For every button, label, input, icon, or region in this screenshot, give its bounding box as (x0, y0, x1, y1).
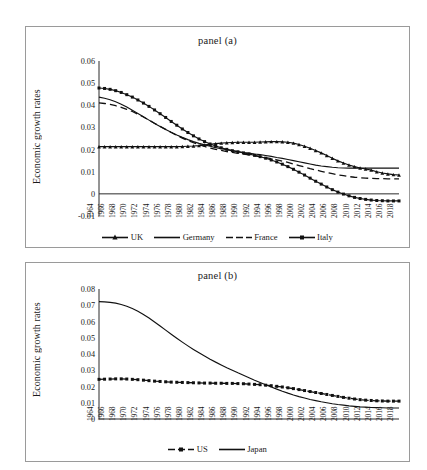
series-marker-italy (336, 191, 339, 194)
x-tick-label: 2010 (341, 407, 350, 421)
x-tick-label: 1996 (263, 204, 272, 218)
panel-b: panel (b) Economic growth rates 00.010.0… (25, 262, 410, 462)
legend-item-us[interactable]: US (168, 444, 208, 454)
series-marker-italy (242, 151, 245, 154)
series-marker-italy (214, 145, 217, 148)
x-tick-label: 2012 (352, 407, 361, 421)
series-marker-italy (331, 188, 334, 191)
series-marker-italy (253, 154, 256, 157)
x-tick-label: 2006 (319, 204, 328, 218)
x-tick-label: 1994 (252, 407, 261, 421)
panel-b-plot-area: 00.010.020.030.040.050.060.070.08 196419… (99, 289, 399, 419)
series-marker-italy (236, 150, 239, 153)
x-tick-label: 2018 (386, 204, 395, 218)
legend-swatch-france (226, 233, 252, 242)
legend-swatch-italy (289, 233, 315, 242)
series-line-japan (99, 302, 399, 408)
legend-swatch-germany (154, 233, 180, 242)
series-marker-us (370, 399, 373, 402)
x-tick-label: 1980 (174, 407, 183, 421)
legend-label: France (254, 232, 277, 242)
series-marker-italy (270, 158, 273, 161)
x-tick-label: 2000 (286, 407, 295, 421)
x-tick-label: 1970 (119, 407, 128, 421)
series-marker-us (303, 389, 306, 392)
series-marker-us (348, 397, 351, 400)
series-marker-us (148, 379, 151, 382)
x-tick-label: 1984 (197, 204, 206, 218)
y-tick-label: 0.07 (81, 301, 99, 310)
series-marker-italy (375, 199, 378, 202)
x-tick-label: 1974 (141, 204, 150, 218)
x-tick-label: 1998 (274, 204, 283, 218)
series-marker-italy (153, 108, 156, 111)
series-marker-us (192, 381, 195, 384)
series-marker-italy (359, 197, 362, 200)
panel-a-legend: UKGermanyFranceItaly (26, 232, 409, 242)
series-marker-us (381, 399, 384, 402)
series-marker-us (131, 378, 134, 381)
series-marker-italy (292, 168, 295, 171)
legend-label: Italy (317, 232, 333, 242)
series-marker-us (198, 381, 201, 384)
x-tick-label: 1974 (141, 407, 150, 421)
series-marker-italy (203, 140, 206, 143)
series-marker-italy (286, 165, 289, 168)
x-tick-label: 1978 (163, 204, 172, 218)
legend-item-uk[interactable]: UK (102, 232, 143, 242)
x-tick-label: 1966 (97, 407, 106, 421)
series-marker-italy (120, 91, 123, 94)
legend-item-germany[interactable]: Germany (154, 232, 214, 242)
series-marker-us (242, 382, 245, 385)
series-marker-us (120, 377, 123, 380)
series-marker-italy (309, 177, 312, 180)
legend-label: Germany (183, 232, 215, 242)
series-marker-italy (198, 137, 201, 140)
x-tick-label: 2000 (286, 204, 295, 218)
x-tick-label: 1978 (163, 407, 172, 421)
series-marker-italy (103, 87, 106, 90)
x-tick-label: 1994 (252, 204, 261, 218)
y-tick-label: 0.05 (81, 79, 99, 88)
series-marker-italy (342, 193, 345, 196)
series-marker-italy (325, 185, 328, 188)
series-marker-italy (281, 163, 284, 166)
series-marker-italy (353, 196, 356, 199)
panel-a-title: panel (a) (26, 35, 409, 46)
legend-item-japan[interactable]: Japan (219, 444, 267, 454)
x-tick-label: 2012 (352, 204, 361, 218)
series-marker-us (159, 380, 162, 383)
series-marker-italy (381, 199, 384, 202)
x-tick-label: 2006 (319, 407, 328, 421)
series-marker-us (392, 400, 395, 403)
x-tick-label: 2010 (341, 204, 350, 218)
series-marker-us (325, 393, 328, 396)
x-tick-label: 1982 (186, 407, 195, 421)
legend-item-france[interactable]: France (226, 232, 278, 242)
series-marker-italy (186, 131, 189, 134)
series-marker-us (331, 394, 334, 397)
series-marker-italy (136, 98, 139, 101)
y-tick-label: 0.01 (81, 167, 99, 176)
series-marker-italy (320, 183, 323, 186)
x-tick-label: 1986 (208, 407, 217, 421)
series-marker-us (286, 386, 289, 389)
series-marker-italy (142, 102, 145, 105)
series-marker-us (353, 398, 356, 401)
x-tick-label: 1970 (119, 204, 128, 218)
series-marker-italy (248, 153, 251, 156)
series-marker-italy (225, 148, 228, 151)
legend-swatch-us (168, 445, 194, 454)
series-marker-us (236, 382, 239, 385)
x-tick-label: 2016 (374, 204, 383, 218)
series-marker-italy (364, 198, 367, 201)
x-tick-label: 1986 (208, 204, 217, 218)
legend-label: UK (131, 232, 143, 242)
legend-item-italy[interactable]: Italy (289, 232, 333, 242)
legend-swatch-japan (219, 445, 245, 454)
series-marker-us (342, 396, 345, 399)
panel-b-title: panel (b) (26, 270, 409, 281)
legend-label: US (197, 444, 208, 454)
y-tick-label: 0.03 (81, 366, 99, 375)
x-tick-label: 1988 (219, 204, 228, 218)
